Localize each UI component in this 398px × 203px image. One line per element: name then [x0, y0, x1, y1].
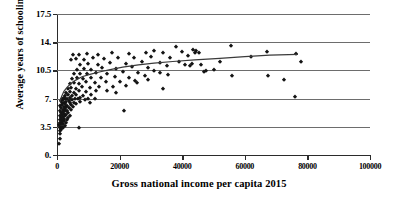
x-tick-label: 20000	[110, 162, 129, 171]
x-tick	[370, 156, 371, 160]
x-tick-label: 100000	[359, 162, 381, 171]
x-tick	[307, 156, 308, 160]
x-tick	[182, 156, 183, 160]
x-tick-label: 0	[55, 162, 59, 171]
y-tick-label: 7.	[45, 94, 51, 104]
y-tick-label: 0.	[45, 150, 51, 160]
scatter-chart: Average years of schooling 0.3.57.10.514…	[0, 0, 398, 203]
y-tick	[53, 99, 57, 100]
x-tick-label: 40000	[173, 162, 192, 171]
x-axis-title: Gross national income per capita 2015	[0, 178, 398, 189]
x-tick-label: 60000	[236, 162, 255, 171]
trend-line	[57, 14, 370, 155]
y-tick	[53, 70, 57, 71]
y-tick	[53, 42, 57, 43]
y-tick-label: 3.5	[40, 122, 51, 132]
x-tick-label: 80000	[298, 162, 317, 171]
x-tick	[57, 156, 58, 160]
y-tick-label: 17.5	[36, 9, 51, 19]
y-tick-label: 14.	[40, 37, 51, 47]
x-tick	[245, 156, 246, 160]
y-axis-title: Average years of schooling	[14, 0, 25, 127]
x-axis-line	[57, 155, 371, 156]
y-tick-label: 10.5	[36, 65, 51, 75]
y-tick	[53, 14, 57, 15]
plot-area	[57, 14, 370, 155]
y-tick	[53, 127, 57, 128]
x-tick	[120, 156, 121, 160]
